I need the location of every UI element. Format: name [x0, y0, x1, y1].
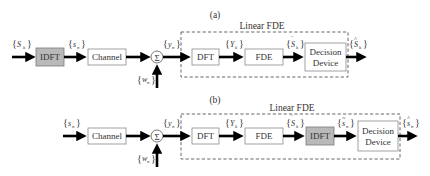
- svg-text:S: S: [17, 40, 21, 49]
- signal-input-b: { s n }: [63, 117, 81, 129]
- svg-text:k: k: [296, 124, 299, 129]
- signal-input-a: { S k }: [12, 38, 32, 50]
- svg-text:n: n: [346, 124, 349, 129]
- svg-text:S: S: [291, 40, 295, 49]
- decision-label-line2-a: Device: [313, 58, 338, 68]
- signal-after-dft-a: { Y k }: [225, 38, 244, 50]
- decision-label-line2-b: Device: [365, 137, 390, 147]
- linear-fde-label-a: Linear FDE: [239, 21, 284, 31]
- svg-text:k: k: [235, 124, 238, 129]
- svg-text:n: n: [72, 124, 75, 129]
- svg-text:}: }: [415, 117, 420, 128]
- svg-text:S: S: [354, 40, 358, 49]
- idft-label-b: IDFT: [310, 131, 331, 141]
- signal-after-dft-b: { Y k }: [225, 117, 244, 129]
- svg-text:n: n: [147, 159, 150, 164]
- dft-label-a: DFT: [197, 52, 215, 62]
- diagram-a: (a) Linear FDE { S k } IDFT { s n } Chan…: [12, 10, 368, 88]
- svg-text:s: s: [68, 119, 71, 128]
- diagram-b-label: (b): [209, 95, 220, 106]
- svg-text:S: S: [291, 119, 295, 128]
- svg-text:s: s: [407, 119, 410, 128]
- svg-text:}: }: [363, 38, 368, 49]
- svg-text:}: }: [76, 117, 81, 128]
- svg-text:k: k: [235, 45, 238, 50]
- svg-text:s: s: [342, 119, 345, 128]
- svg-text:}: }: [176, 38, 181, 49]
- idft-label-a: IDFT: [40, 52, 61, 62]
- svg-text:}: }: [239, 117, 244, 128]
- decision-label-line1-a: Decision: [310, 47, 342, 57]
- svg-text:k: k: [359, 45, 362, 50]
- sigma-icon-b: Σ: [154, 132, 159, 142]
- svg-text:}: }: [300, 38, 305, 49]
- svg-text:}: }: [239, 38, 244, 49]
- channel-label-a: Channel: [92, 52, 122, 62]
- svg-text:}: }: [151, 153, 156, 164]
- svg-text:}: }: [151, 74, 156, 85]
- channel-label-b: Channel: [92, 131, 122, 141]
- svg-text:k: k: [296, 45, 299, 50]
- sigma-icon-a: Σ: [154, 53, 159, 63]
- decision-label-line1-b: Decision: [362, 126, 394, 136]
- fde-label-b: FDE: [255, 131, 273, 141]
- linear-fde-label-b: Linear FDE: [269, 103, 314, 113]
- svg-text:n: n: [411, 124, 414, 129]
- svg-text:n: n: [172, 45, 175, 50]
- signal-after-fde-a: { ‾ S k }: [286, 36, 305, 50]
- svg-text:}: }: [81, 38, 86, 49]
- diagram-b: (b) Linear FDE { s n } Channel Σ { w n }…: [63, 95, 420, 167]
- signal-noise-b: { w n }: [137, 153, 156, 164]
- svg-text:}: }: [300, 117, 305, 128]
- svg-text:n: n: [172, 124, 175, 129]
- dft-label-b: DFT: [197, 131, 215, 141]
- signal-after-fde-b: { ‾ S k }: [286, 115, 305, 129]
- signal-output-a: { ^ S k }: [349, 36, 368, 50]
- svg-text:k: k: [23, 45, 26, 50]
- svg-text:}: }: [176, 117, 181, 128]
- svg-text:n: n: [77, 45, 80, 50]
- signal-noise-a: { w n }: [137, 74, 156, 85]
- signal-after-idft-b: { ~ s n }: [337, 115, 355, 129]
- signal-after-idft-a: { s n }: [68, 38, 86, 50]
- svg-text:s: s: [73, 40, 76, 49]
- diagram-a-label: (a): [210, 10, 221, 21]
- svg-text:}: }: [27, 38, 32, 49]
- svg-text:n: n: [147, 80, 150, 85]
- block-diagrams: (a) Linear FDE { S k } IDFT { s n } Chan…: [0, 0, 430, 176]
- signal-received-b: { y n }: [163, 117, 181, 129]
- signal-received-a: { y n }: [163, 38, 181, 50]
- svg-text:}: }: [350, 117, 355, 128]
- signal-output-b: { ^ s n }: [402, 115, 420, 129]
- fde-label-a: FDE: [255, 52, 273, 62]
